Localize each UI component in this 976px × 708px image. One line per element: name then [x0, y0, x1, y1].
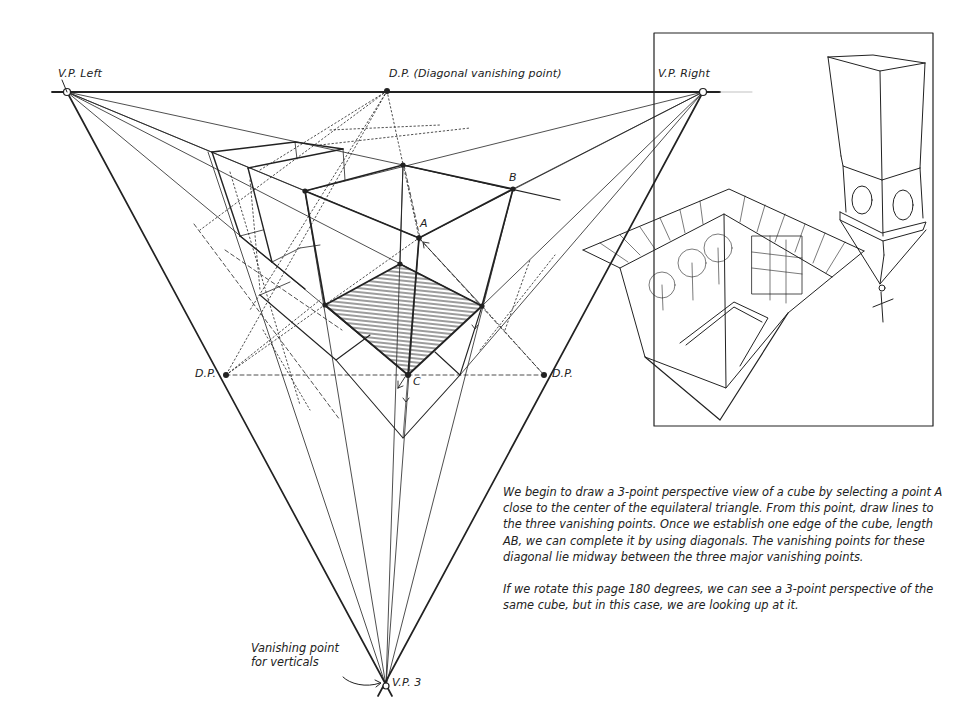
explanation-caption: We begin to draw a 3-point perspective v…: [503, 484, 943, 629]
vp3-pointer-arrow: [343, 677, 380, 685]
point-c-label: C: [413, 375, 421, 388]
dp-right-label: D.P.: [552, 367, 573, 380]
vp3-label: V.P. 3: [392, 676, 421, 689]
dp-top-label: D.P. (Diagonal vanishing point): [389, 67, 562, 80]
vp-right-label: V.P. Right: [658, 67, 710, 80]
secondary-boxes: [212, 142, 345, 295]
vertical-vp-note-line2: for verticals: [251, 655, 339, 669]
vertical-vp-note-line1: Vanishing point: [251, 641, 339, 655]
vp-right-marker: [700, 89, 707, 96]
point-b-label: B: [509, 171, 517, 184]
vertical-vp-note: Vanishing point for verticals: [251, 641, 339, 669]
courtyard-sketch: [583, 189, 864, 420]
cube-top-face: [305, 165, 513, 238]
rays-vp-left: [67, 92, 560, 375]
caption-paragraph-1: We begin to draw a 3-point perspective v…: [503, 484, 943, 565]
diagonal-construction-dotted: [200, 91, 555, 410]
dp-left-label: D.P.: [195, 367, 216, 380]
vp-left-label: V.P. Left: [58, 67, 102, 80]
vp3-marker: [383, 683, 389, 689]
tower-sketch: [828, 55, 926, 322]
caption-paragraph-2: If we rotate this page 180 degrees, we c…: [503, 581, 943, 613]
point-a-label: A: [420, 217, 428, 230]
